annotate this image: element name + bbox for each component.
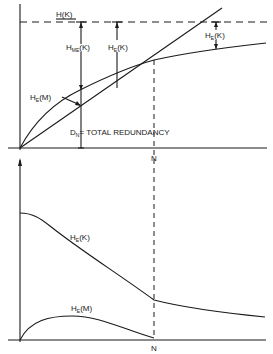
total-redundancy-label: DN= TOTAL REDUNDANCY: [70, 128, 170, 138]
h-e-m-curve: [20, 316, 154, 340]
arrowhead-icon: [214, 44, 218, 49]
n-label-top: N: [151, 154, 157, 163]
h-k-label: H(K): [56, 10, 73, 19]
arrowhead-icon: [214, 22, 218, 27]
h-m-straight-line: [20, 8, 222, 148]
h-e-k-curve: [20, 213, 265, 317]
arrowhead-icon: [75, 101, 81, 106]
arrowhead-icon: [79, 22, 83, 28]
entropy-redundancy-diagram: H(K) HME(K) HE(K) HE(K) HE(M) DN= TOTAL …: [0, 0, 273, 354]
h-e-k-label-bottom: HE(K): [70, 233, 90, 243]
top-panel: H(K) HME(K) HE(K) HE(K) HE(M) DN= TOTAL …: [8, 4, 270, 338]
h-me-k-label: HME(K): [66, 43, 90, 53]
n-label-bottom: N: [151, 344, 157, 353]
h-e-k-label: HE(K): [108, 43, 128, 53]
arrowhead-icon: [18, 158, 22, 166]
h-e-m-label-bottom: HE(M): [71, 304, 92, 314]
h-e-m-label: HE(M): [30, 93, 51, 103]
bottom-panel: HE(K) HE(M) N: [8, 158, 266, 353]
h-e-k-right-label: HE(K): [205, 31, 225, 41]
arrowhead-icon: [115, 22, 119, 28]
